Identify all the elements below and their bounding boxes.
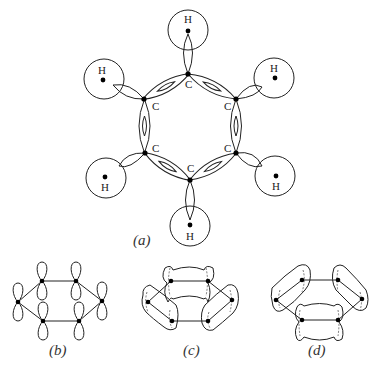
carbon-label-upper-left: C (152, 100, 159, 112)
panel-b-p-orbitals: (b) (13, 262, 107, 359)
panel-c-label: (c) (183, 342, 200, 359)
hydrogen-label-bottom: H (186, 230, 194, 242)
carbon-label-lower-right: C (224, 142, 231, 154)
hydrogen-label-lower-left: H (101, 181, 109, 193)
ch-bond-lobes (113, 34, 262, 220)
carbon-label-bottom: C (187, 162, 194, 174)
carbon-label-upper-right: C (224, 100, 231, 112)
hydrogen-label-lower-right: H (272, 180, 280, 192)
panel-d-pi-bonds-kekule-2: (d) (271, 265, 368, 359)
panel-a-sigma-framework: H H H H H H C C C C C C (a) (84, 10, 295, 249)
panel-b-label: (b) (49, 342, 67, 359)
panel-a-label: (a) (133, 232, 151, 249)
hydrogen-label-top: H (184, 13, 192, 25)
panel-c-pi-bonds-kekule-1: (c) (142, 266, 238, 359)
hydrogen-orbitals (84, 10, 295, 246)
hydrogen-label-upper-left: H (98, 64, 106, 76)
benzene-orbital-figure: H H H H H H C C C C C C (a) (b) (0, 0, 384, 365)
panel-d-label: (d) (308, 342, 326, 359)
carbon-label-lower-left: C (152, 142, 159, 154)
nuclei (101, 29, 279, 228)
hydrogen-label-upper-right: H (270, 62, 278, 74)
carbon-label-top: C (185, 78, 192, 90)
